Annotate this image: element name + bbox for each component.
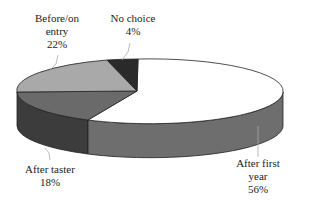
label-text: year <box>232 170 284 183</box>
label-text: Before/on <box>34 12 80 25</box>
data-label-after-first-year: After first year 56% <box>232 157 284 196</box>
label-text: After first <box>232 157 284 170</box>
label-text: No choice <box>108 12 158 25</box>
data-label-before-entry: Before/on entry 22% <box>34 12 80 51</box>
label-percent: 56% <box>232 183 284 196</box>
data-label-after-taster: After taster 18% <box>22 163 78 189</box>
data-label-no-choice: No choice 4% <box>108 12 158 38</box>
label-percent: 22% <box>34 38 80 51</box>
label-text: entry <box>34 25 80 38</box>
label-text: After taster <box>22 163 78 176</box>
label-percent: 18% <box>22 176 78 189</box>
label-percent: 4% <box>108 25 158 38</box>
leader-line-no-choice <box>122 43 130 60</box>
leader-line-after-taster <box>45 148 50 160</box>
